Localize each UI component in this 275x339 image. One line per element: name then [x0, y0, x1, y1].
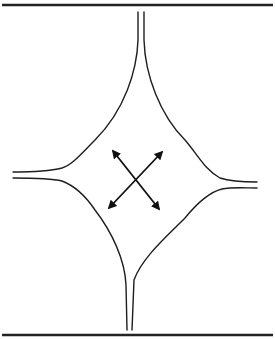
top-left-wall [13, 12, 138, 172]
bottom-right-wall [132, 188, 257, 330]
bottom-left-wall [13, 178, 127, 330]
top-right-wall [144, 12, 257, 182]
junction-diagram [0, 0, 275, 339]
arrow-diagonal-ne-sw [109, 152, 162, 208]
